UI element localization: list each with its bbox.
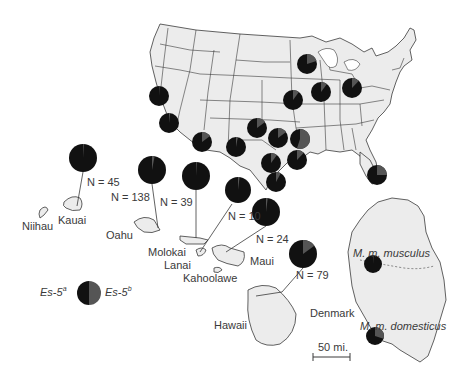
island-oahu xyxy=(134,217,160,232)
island-kauai xyxy=(63,197,82,211)
island-hawaii xyxy=(248,285,296,345)
island-niihau xyxy=(39,207,48,218)
island-maui xyxy=(212,245,244,266)
legend-pie xyxy=(76,280,102,306)
legend-es5a-base: Es-5 xyxy=(40,286,63,298)
legend-es5b-sup: b xyxy=(128,285,132,292)
label-kauai: Kauai xyxy=(58,215,86,226)
legend-es5b-base: Es-5 xyxy=(105,286,128,298)
legend-es5a-label: Es-5a xyxy=(40,287,67,298)
label-niihau: Niihau xyxy=(22,221,53,232)
label-domesticus: M. m. domesticus xyxy=(360,321,446,332)
denmark-map xyxy=(348,198,446,362)
label-kahoolawe: Kahoolawe xyxy=(183,273,237,284)
island-lanai xyxy=(196,248,206,256)
scale-bar-label: 50 mi. xyxy=(318,342,348,353)
label-denmark: Denmark xyxy=(310,308,355,319)
sample-size-maui: N = 24 xyxy=(256,234,289,245)
label-musculus: M. m. musculus xyxy=(353,248,430,259)
sample-size-oahu: N = 138 xyxy=(111,192,150,203)
sample-size-lanai: N = 10 xyxy=(228,211,261,222)
sample-size-hawaii: N = 79 xyxy=(296,270,329,281)
sample-size-kauai: N = 45 xyxy=(87,177,120,188)
label-hawaii: Hawaii xyxy=(214,320,247,331)
scale-bar xyxy=(313,353,350,361)
pie-slice-es5b xyxy=(377,165,387,175)
island-molokai xyxy=(180,236,208,244)
label-oahu: Oahu xyxy=(106,230,133,241)
sample-size-molokai: N = 39 xyxy=(160,197,193,208)
label-maui: Maui xyxy=(250,256,274,267)
label-molokai: Molokai xyxy=(148,247,186,258)
label-lanai: Lanai xyxy=(164,260,191,271)
legend-es5a-sup: a xyxy=(63,285,67,292)
legend-es5b-label: Es-5b xyxy=(105,287,132,298)
